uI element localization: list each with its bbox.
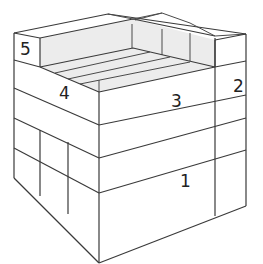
isometric-block-diagram: 5 4 3 2 1	[0, 0, 263, 264]
label-block-3: 3	[171, 91, 182, 111]
label-block-2: 2	[233, 76, 244, 96]
label-block-5: 5	[20, 39, 31, 59]
label-block-4: 4	[59, 83, 70, 103]
label-block-1: 1	[180, 171, 191, 191]
